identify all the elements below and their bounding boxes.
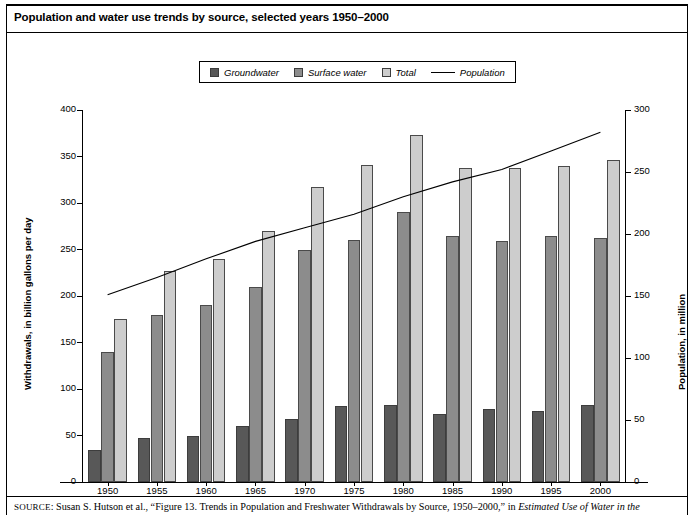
x-tick-label: 1970 — [280, 485, 330, 496]
y-axis-left-title: Withdrawals, in billion gallons per day — [22, 217, 33, 390]
y-axis-right-title: Population, in million — [676, 294, 687, 390]
figure-panel: Population and water use trends by sourc… — [0, 0, 694, 515]
left-border — [6, 4, 7, 515]
y-tick-label-left: 350 — [16, 150, 76, 161]
x-tick-label: 1980 — [378, 485, 428, 496]
legend-swatch-icon — [294, 68, 303, 77]
legend-swatch-icon — [210, 68, 219, 77]
population-polyline — [108, 132, 601, 294]
y-tick-left — [77, 482, 82, 483]
x-tick-label: 1960 — [181, 485, 231, 496]
source-text: : Susan S. Hutson et al., “Figure 13. Tr… — [51, 501, 518, 512]
legend-label: Groundwater — [224, 67, 279, 78]
y-tick-label-left: 300 — [16, 196, 76, 207]
x-tick-label: 2000 — [575, 485, 625, 496]
x-tick-label: 1990 — [477, 485, 527, 496]
source-title-italic: Estimated Use of Water in the — [518, 501, 640, 512]
population-line — [83, 110, 625, 482]
y-tick-label-right: 300 — [634, 103, 694, 114]
y-tick-label-left: 400 — [16, 103, 76, 114]
legend-swatch-icon — [382, 68, 391, 77]
source-label: SOURCE — [14, 502, 51, 512]
x-tick-label: 1995 — [526, 485, 576, 496]
y-axis-left-labels: 050100150200250300350400 — [8, 0, 76, 515]
title-divider — [6, 32, 688, 33]
x-tick-label: 1965 — [230, 485, 280, 496]
x-tick-label: 1975 — [329, 485, 379, 496]
y-tick-left — [77, 342, 82, 343]
y-tick-left — [77, 435, 82, 436]
y-tick-label-right: 50 — [634, 413, 694, 424]
y-tick-right — [626, 172, 631, 173]
source-note: SOURCE: Susan S. Hutson et al., “Figure … — [14, 500, 682, 514]
x-axis-labels: 1950195519601965197019751980198519901995… — [83, 485, 625, 499]
y-tick-right — [626, 234, 631, 235]
y-tick-left — [77, 389, 82, 390]
legend-label: Surface water — [308, 67, 367, 78]
x-tick-label: 1955 — [132, 485, 182, 496]
y-tick-left — [77, 156, 82, 157]
legend-label: Total — [396, 67, 416, 78]
legend-item-surface-water[interactable]: Surface water — [294, 67, 367, 78]
y-tick-label-right: 200 — [634, 227, 694, 238]
y-tick-label-right: 0 — [634, 475, 694, 486]
y-tick-label-right: 250 — [634, 165, 694, 176]
x-tick-label: 1950 — [83, 485, 133, 496]
legend-item-total[interactable]: Total — [382, 67, 416, 78]
plot-area — [83, 110, 625, 482]
y-tick-label-left: 0 — [16, 475, 76, 486]
y-tick-right — [626, 110, 631, 111]
x-tick-label: 1985 — [428, 485, 478, 496]
y-tick-right — [626, 358, 631, 359]
top-rule — [6, 4, 688, 6]
y-tick-right — [626, 296, 631, 297]
y-axis-right-labels: 050100150200250300 — [634, 0, 694, 515]
chart-legend: GroundwaterSurface waterTotalPopulation — [199, 61, 516, 83]
y-tick-right — [626, 420, 631, 421]
y-tick-left — [77, 249, 82, 250]
y-tick-left — [77, 296, 82, 297]
y-tick-left — [77, 203, 82, 204]
legend-item-groundwater[interactable]: Groundwater — [210, 67, 279, 78]
legend-label: Population — [460, 67, 505, 78]
legend-line-icon — [431, 72, 455, 73]
y-tick-label-left: 50 — [16, 429, 76, 440]
y-tick-right — [626, 482, 631, 483]
legend-item-population[interactable]: Population — [431, 67, 505, 78]
y-tick-left — [77, 110, 82, 111]
